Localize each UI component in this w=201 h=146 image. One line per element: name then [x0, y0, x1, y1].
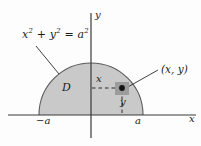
- equation-equals: =: [61, 28, 78, 41]
- x-axis-label: x: [189, 114, 195, 124]
- equation-leader-line: [36, 46, 59, 74]
- x-axis-tick-label-a: a: [135, 116, 141, 126]
- point-leader-line: [126, 70, 158, 88]
- sample-point-marker: [119, 85, 125, 91]
- y-axis-label: y: [95, 10, 101, 20]
- equation-a-exponent: 2: [84, 27, 89, 35]
- point-coordinate-label: (x, y): [161, 64, 188, 75]
- x-axis-tick-label-negative-a: −a: [36, 116, 50, 126]
- curve-equation-label: x2 + y2 = a2: [22, 29, 89, 40]
- x-dimension-label: x: [96, 74, 102, 84]
- y-dimension-label: y: [120, 97, 126, 107]
- math-figure-semicircle-region: x2 + y2 = a2 (x, y) D x y −a a x y: [0, 0, 201, 146]
- equation-plus: +: [33, 28, 50, 41]
- region-d-label: D: [62, 82, 71, 93]
